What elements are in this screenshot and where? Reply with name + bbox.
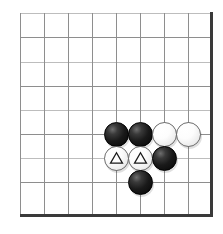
grid-line-vertical-1 (44, 13, 45, 215)
black-stone[interactable] (104, 122, 129, 147)
grid-line-vertical-6 (164, 13, 165, 215)
black-stone[interactable] (152, 146, 177, 171)
grid-line-vertical-4 (116, 13, 117, 215)
go-board[interactable] (0, 0, 223, 234)
white-stone[interactable] (176, 122, 201, 147)
white-stone[interactable] (104, 146, 129, 171)
grid-line-vertical-0 (20, 13, 21, 215)
white-stone[interactable] (128, 146, 153, 171)
triangle-mark-icon (129, 147, 152, 170)
white-stone[interactable] (152, 122, 177, 147)
triangle-mark-icon (105, 147, 128, 170)
board-edge-bottom (20, 214, 213, 217)
black-stone[interactable] (128, 122, 153, 147)
grid-line-vertical-3 (92, 13, 93, 215)
black-stone[interactable] (128, 170, 153, 195)
grid-line-vertical-2 (68, 13, 69, 215)
grid-line-vertical-7 (188, 13, 189, 215)
board-edge-right (210, 12, 213, 217)
go-diagram-figure (0, 0, 223, 234)
